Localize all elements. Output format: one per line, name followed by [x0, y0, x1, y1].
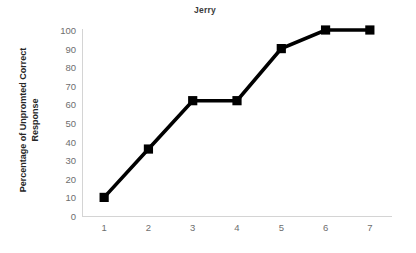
- y-axis-tick-label: 40: [38, 136, 82, 147]
- y-axis-tick-label: 10: [38, 192, 82, 203]
- series-line-jerry: [104, 30, 370, 197]
- chart-title: Jerry: [0, 5, 416, 15]
- y-axis-tick-label: 30: [38, 155, 82, 166]
- line-chart: Jerry Percentage of Unpromted Correct Re…: [0, 0, 416, 253]
- data-point-marker: [232, 96, 241, 105]
- y-axis-tick-label: 50: [38, 118, 82, 129]
- x-axis-tick-label: 7: [350, 222, 390, 233]
- y-axis-tick-label: 70: [38, 80, 82, 91]
- series-canvas: [82, 30, 392, 216]
- x-axis-tick-label: 6: [306, 222, 346, 233]
- x-axis-tick-label: 2: [128, 222, 168, 233]
- plot-area: [82, 30, 392, 216]
- x-axis-tick-label: 1: [84, 222, 124, 233]
- chart-title-text: Jerry: [194, 5, 216, 15]
- data-point-marker: [100, 193, 109, 202]
- x-axis-tick-label: 3: [173, 222, 213, 233]
- x-axis-line: [82, 216, 392, 217]
- y-axis-tick-labels: 0102030405060708090100: [32, 30, 82, 216]
- y-axis-tick-label: 0: [38, 211, 82, 222]
- y-axis-tick-label: 20: [38, 173, 82, 184]
- y-axis-tick-label: 80: [38, 62, 82, 73]
- y-axis-tick-label: 60: [38, 99, 82, 110]
- data-point-marker: [365, 25, 374, 34]
- x-axis-tick-labels: 1234567: [82, 222, 392, 238]
- y-axis-tick-label: 90: [38, 43, 82, 54]
- data-point-marker: [321, 25, 330, 34]
- data-point-marker: [188, 96, 197, 105]
- y-axis-title-line-1: Percentage of Unpromted Correct: [18, 48, 28, 193]
- data-point-marker: [277, 44, 286, 53]
- x-axis-tick-label: 4: [217, 222, 257, 233]
- y-axis-tick-label: 100: [38, 25, 82, 36]
- data-point-marker: [144, 144, 153, 153]
- series-markers-jerry: [100, 25, 375, 202]
- x-axis-tick-label: 5: [261, 222, 301, 233]
